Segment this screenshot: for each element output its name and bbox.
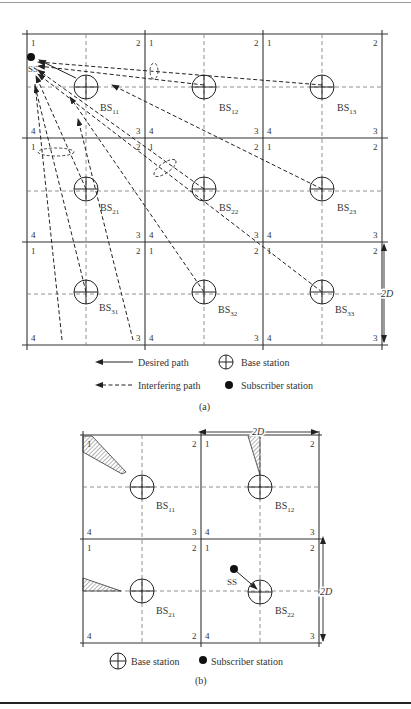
legend-interfering-label: Interfering path [138, 380, 200, 391]
base-station-labels-b: BS11 BS12 BS21 BS22 [156, 500, 295, 619]
subscriber-station-a [27, 53, 35, 61]
svg-text:3: 3 [373, 230, 378, 240]
svg-text:2: 2 [254, 38, 259, 48]
svg-text:2: 2 [192, 543, 197, 553]
svg-text:4: 4 [149, 230, 154, 240]
svg-text:1: 1 [267, 142, 272, 152]
svg-text:4: 4 [149, 333, 154, 343]
bs31-label: BS31 [99, 302, 119, 316]
svg-text:3: 3 [310, 527, 315, 537]
dimension-label-b-right: 2D [320, 586, 333, 597]
legend-subscriber-label: Subscriber station [241, 380, 313, 391]
interfering-paths [35, 62, 322, 340]
legend-subscriber-icon [225, 381, 233, 389]
svg-text:4: 4 [267, 333, 272, 343]
svg-text:2: 2 [373, 38, 378, 48]
svg-text:3: 3 [192, 527, 197, 537]
svg-text:4: 4 [267, 126, 272, 136]
svg-text:3: 3 [136, 333, 141, 343]
svg-text:2: 2 [136, 246, 141, 256]
svg-text:3: 3 [373, 126, 378, 136]
svg-text:2: 2 [254, 246, 259, 256]
svg-text:3: 3 [310, 631, 315, 641]
svg-text:1: 1 [205, 439, 210, 449]
page-bottom-rule [0, 702, 411, 704]
legend-b-subscriber-icon [199, 656, 207, 664]
svg-text:4: 4 [31, 230, 36, 240]
bs22-label-b: BS22 [275, 605, 295, 619]
svg-text:4: 4 [87, 631, 92, 641]
ss-label-a: SS [28, 64, 38, 74]
bs22-label: BS22 [219, 202, 239, 216]
svg-text:3: 3 [254, 333, 259, 343]
svg-text:2: 2 [373, 246, 378, 256]
svg-text:2: 2 [192, 439, 197, 449]
ss-label-b: SS [227, 577, 237, 587]
desired-path-b [236, 571, 257, 589]
legend-base-station-icon [219, 355, 233, 369]
svg-text:4: 4 [205, 631, 210, 641]
svg-text:2: 2 [310, 543, 315, 553]
bs21-label: BS21 [100, 202, 120, 216]
legend-b-subscriber-label: Subscriber station [211, 656, 283, 667]
legend-b-base-station-label: Base station [131, 656, 180, 667]
bs11-label: BS11 [100, 102, 119, 116]
svg-text:1: 1 [205, 543, 210, 553]
legend-b: Base station Subscriber station [110, 653, 283, 669]
svg-text:1: 1 [149, 246, 154, 256]
svg-text:4: 4 [31, 333, 36, 343]
legend-desired-label: Desired path [138, 357, 189, 368]
svg-text:4: 4 [267, 230, 272, 240]
svg-text:1: 1 [31, 246, 36, 256]
svg-text:1: 1 [31, 38, 36, 48]
svg-text:2: 2 [192, 631, 197, 641]
svg-text:2: 2 [310, 439, 315, 449]
svg-text:3: 3 [254, 230, 259, 240]
caption-a: (a) [199, 401, 210, 413]
svg-text:4: 4 [205, 527, 210, 537]
bs11-label-b: BS11 [156, 500, 175, 514]
bs33-label: BS33 [335, 304, 355, 318]
svg-text:2: 2 [373, 142, 378, 152]
svg-text:4: 4 [31, 126, 36, 136]
legend-b-base-station-icon [110, 653, 126, 669]
svg-text:2: 2 [136, 38, 141, 48]
bs32-label: BS32 [218, 304, 238, 318]
bs12-label: BS12 [219, 102, 239, 116]
bs13-label: BS13 [337, 102, 357, 116]
bs12-label-b: BS12 [275, 500, 295, 514]
svg-text:3: 3 [136, 230, 141, 240]
svg-text:3: 3 [136, 126, 141, 136]
dimension-label-b-top: 2D [252, 426, 265, 437]
bs23-label: BS23 [337, 202, 357, 216]
legend-a: Desired path Interfering path Base stati… [102, 355, 313, 391]
svg-text:1: 1 [87, 543, 92, 553]
svg-text:1: 1 [149, 38, 154, 48]
legend-base-station-label: Base station [241, 357, 290, 368]
svg-text:3: 3 [373, 333, 378, 343]
dimension-label-a: 2D [381, 288, 394, 299]
svg-text:4: 4 [87, 527, 92, 537]
diagram-canvas: 12 12 12 43 43 43 12 12 12 43 43 43 12 1… [0, 0, 411, 709]
svg-text:1: 1 [267, 38, 272, 48]
caption-b: (b) [195, 675, 207, 687]
bs21-label-b: BS21 [156, 605, 176, 619]
svg-text:1: 1 [31, 142, 36, 152]
svg-text:4: 4 [149, 126, 154, 136]
svg-text:3: 3 [254, 126, 259, 136]
interference-lobe-marks [38, 63, 179, 180]
svg-text:2: 2 [254, 142, 259, 152]
figure-a-grid [22, 30, 388, 350]
